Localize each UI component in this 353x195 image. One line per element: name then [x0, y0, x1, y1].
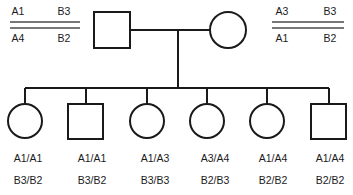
offspring-genotype-6: A1/A4 B2/B2 — [316, 152, 345, 186]
pedigree-canvas: A1 B3 A4 B2 A3 B3 A1 B2 — [0, 0, 353, 195]
offspring-genotype-3: A1/A3 B3/B3 — [141, 152, 170, 186]
offspring-locus-a-6: A1/A4 — [316, 152, 345, 164]
offspring-symbol-square-2 — [68, 104, 103, 139]
offspring-locus-a-2: A1/A1 — [78, 152, 107, 164]
offspring-symbol-square-6 — [311, 104, 346, 139]
father-haplotype-top-allele-a: A1 — [12, 5, 25, 17]
offspring-symbol-circle-5 — [250, 104, 284, 138]
father-symbol-square — [94, 12, 130, 48]
offspring-symbol-circle-4 — [190, 104, 224, 138]
offspring-locus-a-1: A1/A1 — [14, 152, 43, 164]
offspring-locus-b-1: B3/B2 — [14, 174, 43, 186]
offspring-locus-a-4: A3/A4 — [201, 152, 230, 164]
offspring-locus-a-5: A1/A4 — [259, 152, 288, 164]
offspring-symbol-circle-1 — [8, 104, 42, 138]
father-haplotype-bottom-allele-a: A4 — [12, 32, 25, 44]
offspring-genotype-2: A1/A1 B3/B2 — [78, 152, 107, 186]
pedigree-diagram: A1 B3 A4 B2 A3 B3 A1 B2 — [0, 0, 353, 195]
father-haplotype-bottom-allele-b: B2 — [58, 32, 71, 44]
mother-haplotype-block: A3 B3 A1 B2 — [272, 5, 344, 44]
offspring-locus-b-2: B3/B2 — [78, 174, 107, 186]
mother-haplotype-top-allele-b: B3 — [324, 5, 337, 17]
father-haplotype-top-allele-b: B3 — [58, 5, 71, 17]
mother-symbol-circle — [210, 12, 246, 48]
offspring-locus-a-3: A1/A3 — [141, 152, 170, 164]
offspring-locus-b-4: B2/B3 — [201, 174, 230, 186]
mother-haplotype-bottom-allele-a: A1 — [276, 32, 289, 44]
offspring-genotype-1: A1/A1 B3/B2 — [14, 152, 43, 186]
offspring-symbol-circle-3 — [130, 104, 164, 138]
offspring-locus-b-6: B2/B2 — [316, 174, 345, 186]
offspring-genotype-5: A1/A4 B2/B2 — [259, 152, 288, 186]
father-haplotype-block: A1 B3 A4 B2 — [10, 5, 80, 44]
offspring-locus-b-5: B2/B2 — [259, 174, 288, 186]
mother-haplotype-top-allele-a: A3 — [276, 5, 289, 17]
offspring-locus-b-3: B3/B3 — [141, 174, 170, 186]
offspring-genotype-4: A3/A4 B2/B3 — [201, 152, 230, 186]
mother-haplotype-bottom-allele-b: B2 — [324, 32, 337, 44]
